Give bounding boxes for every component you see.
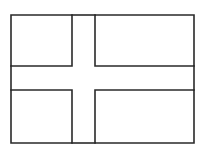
bottom-left-panel [11, 90, 72, 143]
flag-diagram [0, 0, 204, 149]
top-right-panel [95, 15, 194, 66]
top-left-panel [11, 15, 72, 66]
bottom-right-panel [95, 90, 194, 143]
